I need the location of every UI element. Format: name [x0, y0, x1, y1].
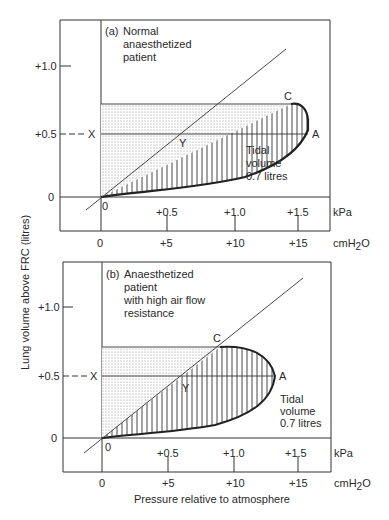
y-tick: 0: [51, 432, 57, 444]
x-tick-cm: +5: [160, 237, 173, 249]
panel-b-title: resistance: [124, 307, 174, 319]
x-tick-cm: +15: [289, 237, 308, 249]
x-tick-cm: +10: [226, 237, 245, 249]
y-tick: +1.0: [35, 60, 57, 72]
panel-a-title: anaesthetized: [123, 38, 192, 50]
x-tick-cm: 0: [97, 237, 103, 249]
point-x: X: [90, 370, 98, 382]
x-tick-kpa: +1.5: [285, 447, 307, 459]
y-tick: 0: [48, 191, 54, 203]
x-tick-cm: +15: [289, 477, 308, 489]
point-o: 0: [105, 441, 111, 453]
figure: Lung volume above FRC (litres) +1.0 +0.5…: [0, 0, 389, 520]
panel-b-title: patient: [124, 281, 157, 293]
tidal-note: Tidal: [246, 144, 269, 156]
x-axis-label: Pressure relative to atmosphere: [134, 493, 290, 505]
point-c: C: [213, 332, 221, 344]
point-a: A: [312, 128, 320, 140]
point-o: 0: [102, 200, 108, 212]
unit-cmh2o: cmH2O: [333, 237, 370, 252]
x-tick-cm: +10: [226, 477, 245, 489]
y-tick: +0.5: [35, 128, 57, 140]
x-tick-kpa: +0.5: [156, 206, 178, 218]
unit-kpa: kPa: [333, 206, 353, 218]
x-tick-kpa: +1.5: [287, 206, 309, 218]
tidal-note: volume: [280, 405, 315, 417]
y-axis-label: Lung volume above FRC (litres): [19, 215, 31, 370]
tidal-note: 0.7 litres: [246, 170, 288, 182]
panel-b: +1.0 +0.5 0 +0.5 +1.0 +1.5 kPa 0 +5 +10 …: [38, 262, 371, 505]
tidal-note: Tidal: [280, 393, 303, 405]
panel-a: +1.0 +0.5 0 +0.5 +1.0 +1.5 kPa 0 +5 +10 …: [35, 20, 370, 252]
tidal-note: 0.7 litres: [280, 417, 322, 429]
panel-b-title: Anaesthetized: [124, 268, 194, 280]
panel-b-title: with high air flow: [123, 294, 205, 306]
x-tick-kpa: +0.5: [157, 447, 179, 459]
point-a: A: [279, 370, 287, 382]
panel-b-label: (b): [106, 268, 119, 280]
panel-a-title: patient: [123, 51, 156, 63]
unit-kpa: kPa: [334, 447, 354, 459]
point-x: X: [88, 128, 96, 140]
x-tick-kpa: +1.0: [223, 447, 245, 459]
point-c: C: [284, 90, 292, 102]
point-y: Y: [179, 137, 187, 149]
x-tick-kpa: +1.0: [224, 206, 246, 218]
unit-cmh2o: cmH2O: [334, 477, 371, 492]
y-tick: +1.0: [38, 301, 60, 313]
x-tick-cm: 0: [99, 477, 105, 489]
point-y: Y: [182, 382, 190, 394]
tidal-note: volume: [246, 157, 281, 169]
panel-a-label: (a): [105, 25, 118, 37]
y-tick: +0.5: [38, 370, 60, 382]
panel-a-title: Normal: [123, 25, 158, 37]
x-tick-cm: +5: [162, 477, 175, 489]
